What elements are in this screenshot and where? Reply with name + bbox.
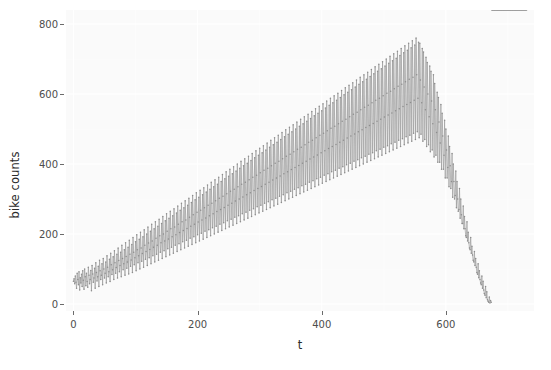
y-tick-label: 200: [18, 229, 58, 240]
y-tick-mark: [60, 24, 64, 25]
y-tick-mark: [60, 164, 64, 165]
y-tick-label: 400: [18, 159, 58, 170]
y-tick-mark: [60, 234, 64, 235]
y-axis-tick-labels: 8006004002000: [12, 0, 58, 370]
x-tick-mark: [446, 311, 447, 315]
x-tick-label: 600: [436, 319, 455, 330]
bike-counts-line: [73, 38, 491, 303]
x-axis-title: t: [66, 338, 534, 352]
x-tick-mark: [73, 311, 74, 315]
bike-counts-chart: bike counts 8006004002000 0200400600 t: [0, 0, 551, 370]
y-tick-label: 0: [18, 299, 58, 310]
x-tick-mark: [198, 311, 199, 315]
x-tick-mark: [322, 311, 323, 315]
y-tick-label: 600: [18, 89, 58, 100]
y-tick-label: 800: [18, 19, 58, 30]
x-tick-label: 0: [70, 319, 76, 330]
x-tick-label: 400: [312, 319, 331, 330]
series-canvas: [66, 10, 534, 311]
x-tick-label: 200: [188, 319, 207, 330]
y-tick-mark: [60, 304, 64, 305]
plot-panel: [66, 10, 534, 311]
y-tick-mark: [60, 94, 64, 95]
